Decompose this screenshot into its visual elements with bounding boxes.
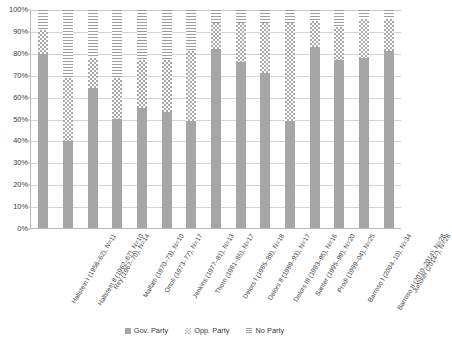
bar-segment-no-party — [112, 10, 122, 78]
bar-segment-no-party — [384, 10, 394, 19]
bar-segment-no-party — [359, 10, 369, 19]
x-axis-label-slot: Delors III (1993–95), N=16 — [253, 231, 278, 327]
x-axis-label-slot: Thorn (1981–85), N=17 — [178, 231, 203, 327]
bar-segment-gov-party — [260, 73, 270, 228]
bar[interactable] — [359, 10, 369, 228]
legend-item-gov-party[interactable]: Gov. Party — [125, 327, 168, 334]
legend-label: Gov. Party — [134, 327, 168, 334]
bar-segment-no-party — [211, 10, 221, 23]
bar-segment-opp-party — [211, 23, 221, 49]
bar-segment-gov-party — [285, 121, 295, 228]
legend-item-opp-party[interactable]: Opp. Party — [185, 327, 229, 334]
bar-segment-opp-party — [63, 78, 73, 141]
y-axis-tick-label: 60% — [13, 94, 28, 101]
bar-slot — [253, 10, 278, 228]
bar-segment-opp-party — [137, 60, 147, 108]
bar-segment-no-party — [236, 10, 246, 23]
y-axis-tick-label: 50% — [13, 116, 28, 123]
bar-segment-gov-party — [162, 112, 172, 228]
x-axis-labels: Hallstein I (1958–62), N=11Hallstein II … — [30, 231, 401, 327]
bar-segment-gov-party — [38, 54, 48, 228]
bar-slot — [31, 10, 56, 228]
x-axis-label-slot: Barroso II (2010–2014), N=28 — [352, 231, 377, 327]
x-axis-label-slot: Santer (1995–99), N=20 — [277, 231, 302, 327]
bar-slot — [179, 10, 204, 228]
x-axis-label-slot: Juncker (2014–), N=28 — [376, 231, 401, 327]
y-axis-tick-label: 30% — [13, 160, 28, 167]
y-axis-tick-label: 70% — [13, 72, 28, 79]
x-axis-label-slot: Rey (1967–70), N=14 — [79, 231, 104, 327]
bar[interactable] — [112, 10, 122, 228]
bar-segment-opp-party — [236, 23, 246, 62]
bar-segment-opp-party — [384, 19, 394, 52]
bar-segment-no-party — [186, 10, 196, 51]
bar-segment-gov-party — [88, 88, 98, 228]
legend-label: Opp. Party — [194, 327, 229, 334]
x-axis-label-text: Juncker (2014–), N=28 — [411, 233, 451, 294]
y-axis-tick-label: 80% — [13, 50, 28, 57]
bar-slot — [204, 10, 229, 228]
bar-segment-opp-party — [334, 27, 344, 60]
bar-slot — [352, 10, 377, 228]
bar-segment-no-party — [162, 10, 172, 60]
bar[interactable] — [384, 10, 394, 228]
bar-segment-gov-party — [310, 47, 320, 228]
bar-segment-opp-party — [88, 58, 98, 89]
bar-segment-no-party — [38, 10, 48, 30]
bar-slot — [154, 10, 179, 228]
bar-segment-gov-party — [236, 62, 246, 228]
bar[interactable] — [285, 10, 295, 228]
bar[interactable] — [334, 10, 344, 228]
bar[interactable] — [211, 10, 221, 228]
x-axis-label-slot: Jenkins (1977–81), N=13 — [154, 231, 179, 327]
bar-slot — [80, 10, 105, 228]
y-axis-tick-label: 100% — [9, 6, 28, 13]
bar[interactable] — [162, 10, 172, 228]
x-axis-label-slot: Hallstein I (1958–62), N=11 — [30, 231, 55, 327]
y-axis-tick-label: 0% — [17, 225, 28, 232]
x-axis-label-slot: Ortoli (1973–77), N=17 — [129, 231, 154, 327]
bar[interactable] — [63, 10, 73, 228]
y-axis-tick-mark — [28, 229, 31, 230]
x-axis-label-slot: Malfatti (1970–73), N=10 — [104, 231, 129, 327]
x-axis-label-slot: Barroso I (2004–10), N=34 — [327, 231, 352, 327]
bar-segment-no-party — [285, 10, 295, 23]
y-axis-tick-label: 90% — [13, 28, 28, 35]
bar-segment-opp-party — [285, 23, 295, 121]
bar-segment-no-party — [334, 10, 344, 27]
bar[interactable] — [137, 10, 147, 228]
bar[interactable] — [38, 10, 48, 228]
bar-segment-opp-party — [112, 78, 122, 119]
bar-slot — [105, 10, 130, 228]
bar-segment-gov-party — [359, 58, 369, 228]
legend-swatch — [185, 328, 191, 334]
legend-swatch — [125, 328, 131, 334]
x-axis-label: Juncker (2014–), N=28 — [411, 233, 451, 294]
plot-area: 100%90%80%70%60%50%40%30%20%10%0% — [30, 10, 401, 229]
legend-swatch — [246, 328, 252, 334]
bar-segment-gov-party — [63, 141, 73, 228]
bar-segment-gov-party — [334, 60, 344, 228]
bar-segment-opp-party — [186, 51, 196, 121]
bar[interactable] — [310, 10, 320, 228]
y-axis-tick-label: 10% — [13, 203, 28, 210]
y-axis-tick-label: 40% — [13, 138, 28, 145]
bar[interactable] — [260, 10, 270, 228]
bar[interactable] — [236, 10, 246, 228]
bar-segment-opp-party — [162, 60, 172, 112]
x-axis-label-slot: Hallstein II (1962–67), N=10 — [55, 231, 80, 327]
bar-segment-no-party — [260, 10, 270, 23]
bar[interactable] — [88, 10, 98, 228]
bar-slot — [130, 10, 155, 228]
bar[interactable] — [186, 10, 196, 228]
bar-slot — [376, 10, 401, 228]
x-axis-label-slot: Delors I (1985–89), N=18 — [203, 231, 228, 327]
bar-segment-gov-party — [211, 49, 221, 228]
legend-item-no-party[interactable]: No Party — [246, 327, 284, 334]
bar-slot — [327, 10, 352, 228]
bar-segment-opp-party — [359, 19, 369, 58]
bar-segment-gov-party — [137, 108, 147, 228]
bar-segment-gov-party — [384, 51, 394, 228]
bar-segment-no-party — [310, 10, 320, 21]
